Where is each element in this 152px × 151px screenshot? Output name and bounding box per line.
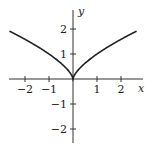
x-axis-label: x [138,82,145,95]
y-tick-label: 2 [60,23,67,36]
x-tick-label: −2 [17,83,33,96]
y-tick-label: 1 [60,48,67,61]
y-tick-label: −2 [51,123,67,136]
y-axis-label: y [77,5,85,18]
chart: −2−112 21−1−2 x y [0,0,152,151]
y-tick-label: −1 [51,98,67,111]
x-tick-label: 1 [94,83,101,96]
x-tick-label: 2 [118,83,125,96]
x-tick-label: −1 [41,83,57,96]
